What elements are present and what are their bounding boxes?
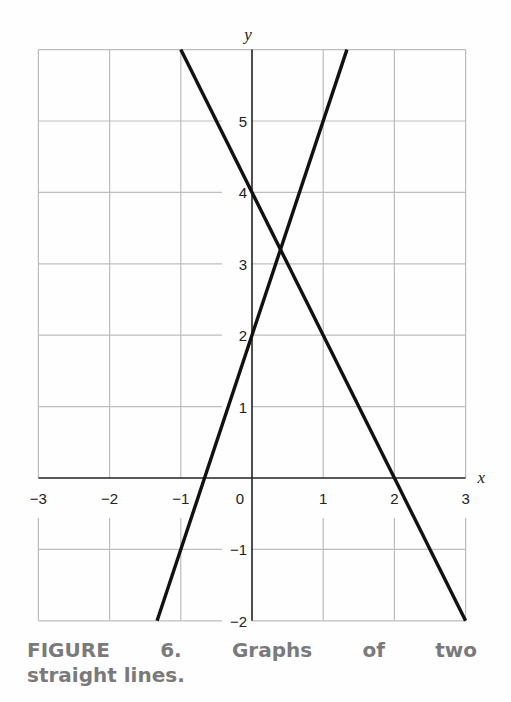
y-axis-label: y xyxy=(242,25,252,44)
y-tick-label: 4 xyxy=(239,184,247,201)
x-tick-label: −1 xyxy=(172,490,189,507)
chart: −3−2−10123−2−112345xy xyxy=(0,0,511,640)
caption-word: Graphs xyxy=(232,638,312,663)
y-tick-label: 2 xyxy=(239,327,247,344)
figure-caption: FIGURE 6. Graphs of two straight lines. xyxy=(27,638,477,688)
caption-word: two xyxy=(435,638,477,663)
x-axis-label: x xyxy=(477,468,486,487)
y-tick-label: 1 xyxy=(239,399,247,416)
y-tick-label: −1 xyxy=(230,541,247,558)
caption-line-2: straight lines. xyxy=(27,663,477,688)
y-tick-label: 3 xyxy=(239,256,247,273)
caption-word: 6. xyxy=(160,638,182,663)
y-tick-label: 5 xyxy=(239,113,247,130)
x-tick-label: −2 xyxy=(101,490,118,507)
x-tick-label: −3 xyxy=(30,490,47,507)
y-tick-label: −2 xyxy=(230,613,247,630)
x-tick-label: 2 xyxy=(390,490,398,507)
x-tick-label: 1 xyxy=(319,490,327,507)
caption-word: of xyxy=(362,638,384,663)
caption-word: FIGURE xyxy=(27,638,110,663)
x-tick-label: 0 xyxy=(236,490,244,507)
x-tick-label: 3 xyxy=(461,490,469,507)
